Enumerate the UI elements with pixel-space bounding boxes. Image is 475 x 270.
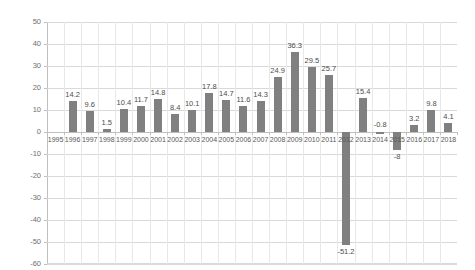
bar-data-label: 9.8 [426,100,436,108]
bar-data-label: 14.3 [253,91,268,99]
bar[interactable] [239,106,247,132]
bar-data-label: 10.4 [117,99,132,107]
bar[interactable] [410,125,418,132]
x-axis-tick-label: 2015 [389,136,405,143]
bar[interactable] [427,110,435,132]
y-axis-tick-mark [44,44,47,45]
x-axis-tick-mark [64,132,65,135]
x-axis-tick-mark [457,132,458,135]
y-axis-tick-mark [44,22,47,23]
bar-data-label: 9.6 [84,101,94,109]
x-axis-tick-label: 2006 [236,136,252,143]
bar[interactable] [86,111,94,132]
y-axis-tick-mark [44,110,47,111]
x-axis-tick-label: 2002 [167,136,183,143]
bar[interactable] [69,101,77,132]
y-axis-tick-mark [44,242,47,243]
x-axis-tick-mark [81,132,82,135]
y-axis-tick-mark [44,154,47,155]
y-axis-tick-mark [44,176,47,177]
bar[interactable] [154,99,162,132]
y-axis-tick-mark [44,88,47,89]
y-axis-tick-label: 40 [0,40,41,48]
bar[interactable] [274,77,282,132]
bar[interactable] [376,132,384,134]
y-axis-tick-mark [44,264,47,265]
x-axis-tick-mark [355,132,356,135]
bar[interactable] [444,123,452,132]
x-axis-tick-mark [115,132,116,135]
bar-slot: 8.4 [167,22,184,264]
x-axis-tick-mark [201,132,202,135]
x-axis-tick-mark [269,132,270,135]
x-axis-tick-mark [406,132,407,135]
x-axis-tick-mark [303,132,304,135]
x-axis-tick-label: 2014 [372,136,388,143]
y-axis-tick-label: -60 [0,260,41,268]
y-axis-tick-label: 30 [0,62,41,70]
y-axis-tick-label: -40 [0,216,41,224]
bar-data-label: 17.8 [202,83,217,91]
x-axis-tick-mark [218,132,219,135]
x-axis-tick-mark [167,132,168,135]
bar-slot: 9.8 [423,22,440,264]
y-axis-tick-label: 50 [0,18,41,26]
bar-slot: 17.8 [201,22,218,264]
x-axis-tick-mark [389,132,390,135]
bar-data-label: 15.4 [356,88,371,96]
y-axis-tick-label: -30 [0,194,41,202]
x-axis-tick-label: 2009 [287,136,303,143]
bar-slot: 29.5 [303,22,320,264]
bar-slot: 9.6 [81,22,98,264]
bar[interactable] [291,52,299,132]
bar[interactable] [359,98,367,132]
bar-slot [47,22,64,264]
bar-slot: 1.5 [98,22,115,264]
bar[interactable] [308,67,316,132]
bar-series: 14.29.61.510.411.714.88.410.117.814.711.… [47,22,457,264]
bar-slot: 14.3 [252,22,269,264]
bar[interactable] [137,106,145,132]
x-axis-tick-label: 2013 [355,136,371,143]
plot-area: 14.29.61.510.411.714.88.410.117.814.711.… [47,22,457,264]
x-axis-tick-label: 2008 [270,136,286,143]
x-axis-tick-mark [235,132,236,135]
bar[interactable] [171,114,179,132]
bar[interactable] [342,132,350,245]
y-axis-tick-label: -10 [0,150,41,158]
x-axis-tick-label: 2004 [201,136,217,143]
gridline [47,264,457,265]
bar-data-label: 24.9 [270,67,285,75]
y-axis-tick-label: -20 [0,172,41,180]
bar-slot: 14.8 [150,22,167,264]
bar[interactable] [205,93,213,132]
bar-slot: 14.7 [218,22,235,264]
x-axis-tick-mark [423,132,424,135]
y-axis-tick-mark [44,220,47,221]
bar-data-label: -0.8 [374,121,387,129]
bar[interactable] [103,129,111,132]
bar[interactable] [188,110,196,132]
x-axis-tick-label: 1995 [48,136,64,143]
bar-data-label: -8 [394,153,401,161]
bar-slot: 11.6 [235,22,252,264]
bar-chart: 14.29.61.510.411.714.88.410.117.814.711.… [0,0,475,270]
bar[interactable] [222,100,230,132]
x-axis-tick-mark [440,132,441,135]
bar-slot: 10.4 [115,22,132,264]
x-axis-tick-mark [252,132,253,135]
x-axis-tick-label: 2003 [184,136,200,143]
x-axis-tick-mark [286,132,287,135]
x-axis-tick-mark [98,132,99,135]
bar-data-label: 8.4 [170,104,180,112]
bar[interactable] [257,101,265,132]
bar-slot: 25.7 [320,22,337,264]
x-axis-tick-label: 2010 [304,136,320,143]
x-axis-tick-label: 1996 [65,136,81,143]
x-axis-tick-label: 2007 [253,136,269,143]
bar-data-label: 11.7 [134,96,148,104]
bar[interactable] [325,75,333,132]
bar[interactable] [120,109,128,132]
bar-slot: 10.1 [184,22,201,264]
x-axis-tick-label: 2001 [150,136,166,143]
